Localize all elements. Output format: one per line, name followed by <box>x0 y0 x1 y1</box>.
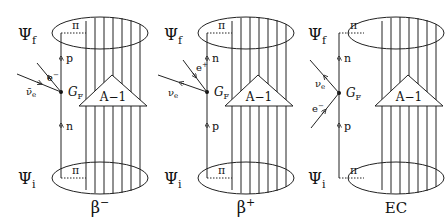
final-state-label: Ψf <box>18 25 37 47</box>
panel-title: β− <box>91 196 109 217</box>
weak-decay-diagram: A−1 π π Ψf Ψi p n GF e− ν̄e β− <box>0 0 445 217</box>
initial-state-label: Ψi <box>308 169 326 191</box>
lepton-b-label: νe <box>168 87 178 100</box>
pion-label-bottom: π <box>350 164 357 177</box>
lepton-a-label: e− <box>47 71 59 83</box>
final-state-ellipse <box>348 17 444 49</box>
nucleon-upper-label: n <box>212 52 219 65</box>
arrow-icon <box>181 83 184 84</box>
panel-beta-minus: A−1 π π Ψf Ψi p n GF e− ν̄e β− <box>17 17 148 217</box>
coupling-label: GF <box>68 85 84 101</box>
initial-state-label: Ψi <box>164 169 182 191</box>
panel-beta-plus: A−1 π π Ψf Ψi n p GF e+ νe β+ <box>158 17 294 217</box>
coupling-label: GF <box>346 86 362 102</box>
core-label: A−1 <box>245 90 272 104</box>
arrow-icon <box>37 82 40 83</box>
nucleon-lower-label: p <box>212 120 219 133</box>
lepton-a-label: e+ <box>196 61 208 73</box>
initial-state-ellipse <box>348 162 444 194</box>
arrow-icon <box>322 111 325 114</box>
coupling-label: GF <box>214 85 230 101</box>
core-label: A−1 <box>99 90 126 104</box>
lepton-a-label: νe <box>315 78 325 91</box>
nucleon-lower-label: n <box>66 120 73 133</box>
pion-label-bottom: π <box>218 164 225 177</box>
lepton-b-label: ν̄e <box>26 86 36 99</box>
panel-title: EC <box>385 199 407 217</box>
lepton-b-label: e− <box>312 102 324 114</box>
final-state-label: Ψf <box>308 25 327 47</box>
nucleon-upper-label: n <box>344 52 351 65</box>
pion-label-top: π <box>218 19 225 32</box>
pion-label-bottom: π <box>72 164 79 177</box>
final-state-label: Ψf <box>164 25 183 47</box>
final-state-ellipse <box>198 17 294 49</box>
final-state-ellipse <box>52 17 148 49</box>
pion-label-top: π <box>350 19 357 32</box>
initial-state-label: Ψi <box>18 169 36 191</box>
nucleon-lower-label: p <box>344 120 351 133</box>
nucleon-upper-label: p <box>66 52 73 65</box>
core-label: A−1 <box>395 90 422 104</box>
panel-electron-capture: A−1 π π Ψf Ψi n p GF νe e− EC <box>308 17 444 217</box>
pion-label-top: π <box>72 19 79 32</box>
initial-state-ellipse <box>52 162 148 194</box>
panel-title: β+ <box>237 196 255 217</box>
initial-state-ellipse <box>198 162 294 194</box>
